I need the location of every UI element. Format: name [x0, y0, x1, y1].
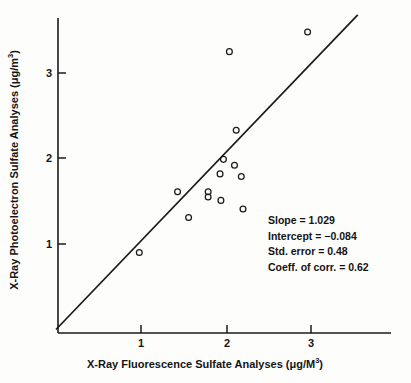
slope-stat: Slope = 1.029: [268, 213, 369, 229]
y-tick-label-2: 2: [46, 152, 52, 164]
regression-line-path: [56, 15, 358, 330]
data-point: [136, 250, 142, 256]
data-point: [227, 49, 233, 55]
x-tick-label-3: 3: [308, 337, 314, 349]
x-axis-title-text: X-Ray Fluorescence Sulfate Analyses (μg/…: [87, 358, 315, 370]
data-point: [217, 171, 223, 177]
data-point: [232, 162, 238, 168]
regression-line: [56, 15, 358, 330]
tick-marks: [58, 73, 311, 333]
y-axis-title-tail: ): [8, 50, 20, 54]
data-point: [175, 189, 181, 195]
y-tick-label-1: 1: [46, 238, 52, 250]
y-axis-title-superscript: 3: [6, 54, 15, 58]
x-tick-label-2: 2: [224, 337, 230, 349]
data-point: [305, 29, 311, 35]
x-axis-title: X-Ray Fluorescence Sulfate Analyses (μg/…: [87, 358, 323, 370]
std-error-stat: Std. error = 0.48: [268, 244, 369, 260]
data-point: [186, 215, 192, 221]
y-tick-label-3: 3: [46, 67, 52, 79]
y-axis-title-text: X-Ray Photoelectron Sulfate Analyses (μg…: [8, 58, 20, 290]
data-point: [238, 174, 244, 180]
coeff-corr-stat: Coeff. of corr. = 0.62: [268, 260, 369, 276]
x-axis-title-tail: ): [319, 358, 323, 370]
data-point: [218, 197, 224, 203]
y-axis-title: X-Ray Photoelectron Sulfate Analyses (μg…: [8, 50, 20, 290]
intercept-stat: Intercept = −0.084: [268, 229, 369, 245]
scatter-plot-figure: 1 2 3 1 2 3 X-Ray Fluorescence Sulfate A…: [0, 0, 411, 383]
statistics-annotation: Slope = 1.029 Intercept = −0.084 Std. er…: [268, 213, 369, 275]
axes: [58, 18, 391, 333]
data-point: [240, 206, 246, 212]
x-tick-label-1: 1: [138, 337, 144, 349]
plot-canvas: [0, 0, 411, 383]
data-point: [233, 127, 239, 133]
